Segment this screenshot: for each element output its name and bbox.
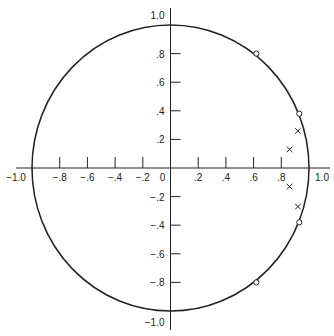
x-tick-label: .6 <box>249 172 258 183</box>
x-tick-label: .8 <box>277 172 286 183</box>
y-tick-label: 1.0 <box>151 10 165 21</box>
zero-marker <box>297 220 302 225</box>
plot-canvas: −1.0−.8−.6−.4−.20.2.4.6.81.01.0.8.6.4.2−… <box>0 0 334 336</box>
x-tick-label: −.2 <box>136 172 151 183</box>
pole-zero-plot: −1.0−.8−.6−.4−.20.2.4.6.81.01.0.8.6.4.2−… <box>0 0 334 336</box>
x-tick-label: −.4 <box>108 172 123 183</box>
pole-marker <box>295 128 301 134</box>
y-tick-label: .2 <box>156 134 165 145</box>
y-tick-label: −1.0 <box>145 317 165 328</box>
x-tick-label: .4 <box>222 172 231 183</box>
zero-marker <box>297 111 302 116</box>
x-tick-label: .2 <box>194 172 203 183</box>
x-tick-label: 0 <box>160 172 166 183</box>
x-tick-label: 1.0 <box>315 172 329 183</box>
y-tick-label: .8 <box>156 49 165 60</box>
y-tick-label: −.8 <box>150 277 165 288</box>
y-tick-label: .6 <box>156 77 165 88</box>
zero-marker <box>254 280 259 285</box>
y-tick-label: −.4 <box>150 220 165 231</box>
x-tick-label: −.6 <box>80 172 95 183</box>
pole-marker <box>295 204 301 210</box>
pole-marker <box>287 184 293 190</box>
zero-marker <box>254 51 259 56</box>
y-tick-label: −.6 <box>150 249 165 260</box>
x-tick-label: −1.0 <box>6 172 26 183</box>
pole-marker <box>287 147 293 153</box>
y-tick-label: .4 <box>156 106 165 117</box>
x-tick-label: −.8 <box>53 172 68 183</box>
y-tick-label: −.2 <box>150 192 165 203</box>
